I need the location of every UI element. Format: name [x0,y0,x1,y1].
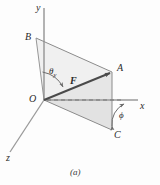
figure-container: y x z O B A C F θy ϕ (a) [0,0,160,185]
phi-label: ϕ [119,111,124,120]
z-axis-label: z [6,153,10,163]
theta-y-label: θy [49,67,56,78]
origin-label: O [29,94,36,104]
figure-drawing [0,0,160,185]
x-axis-label: x [140,101,144,111]
y-axis-label: y [36,3,40,13]
point-b-label: B [25,32,31,42]
force-vector-label: F [70,76,77,86]
figure-caption: (a) [70,168,81,177]
point-c-label: C [114,130,121,140]
theta-y-subscript: y [53,71,56,78]
z-axis-line [10,100,44,152]
point-a-label: A [117,63,123,73]
